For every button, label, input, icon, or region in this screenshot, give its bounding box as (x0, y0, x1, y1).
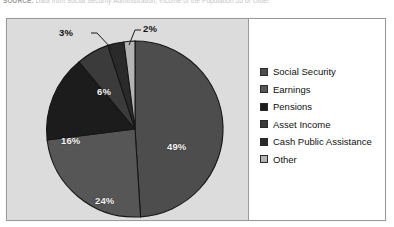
legend-item-cash-public-assistance[interactable]: Cash Public Assistance (260, 133, 386, 151)
legend-item-label: Social Security (273, 66, 336, 77)
slice-label-cash-public-assistance: 3% (59, 27, 73, 38)
legend-item-social-security[interactable]: Social Security (260, 63, 386, 81)
legend-panel: Social Security Earnings Pensions Asset … (250, 19, 385, 220)
legend-swatch-icon (260, 138, 268, 146)
chart-frame: 49% 24% 16% 6% 3% 2% Social Security Ear… (6, 18, 386, 221)
pie-plot-area: 49% 24% 16% 6% 3% 2% (7, 19, 249, 220)
legend-item-other[interactable]: Other (260, 151, 386, 169)
legend-swatch-icon (260, 68, 268, 76)
legend-swatch-icon (260, 120, 268, 128)
pie-chart-graphic (7, 19, 249, 220)
legend-item-label: Earnings (273, 84, 311, 95)
legend-swatch-icon (260, 103, 268, 111)
slice-label-other: 2% (143, 23, 157, 34)
legend-list: Social Security Earnings Pensions Asset … (260, 63, 386, 168)
legend-swatch-icon (260, 155, 268, 163)
legend-item-asset-income[interactable]: Asset Income (260, 116, 386, 134)
source-note-text: Data from Social Security Administration… (36, 0, 270, 4)
legend-item-label: Cash Public Assistance (273, 136, 372, 147)
source-note: SOURCE: Data from Social Security Admini… (3, 0, 391, 5)
pie-slice-social-security[interactable] (135, 41, 223, 217)
slice-label-pensions: 16% (61, 135, 80, 146)
source-note-prefix: SOURCE: (3, 0, 34, 4)
legend-item-earnings[interactable]: Earnings (260, 81, 386, 99)
legend-item-label: Other (273, 154, 297, 165)
slice-label-asset-income: 6% (97, 86, 111, 97)
pie-slices (47, 41, 224, 217)
legend-swatch-icon (260, 85, 268, 93)
legend-item-label: Pensions (273, 101, 312, 112)
slice-label-earnings: 24% (95, 195, 114, 206)
slice-label-social-security: 49% (167, 141, 186, 152)
legend-item-pensions[interactable]: Pensions (260, 98, 386, 116)
legend-item-label: Asset Income (273, 119, 331, 130)
